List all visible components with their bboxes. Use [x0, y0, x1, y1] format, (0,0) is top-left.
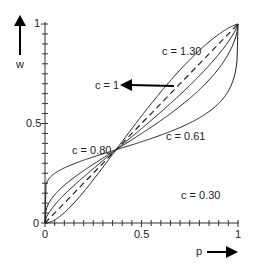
y-axis-arrow-icon [14, 15, 26, 55]
label-c-0.30: c = 0.30 [181, 189, 220, 201]
c1-arrow-icon [120, 79, 174, 91]
label-c-0.80: c = 0.80 [72, 144, 111, 156]
x-tick-0: 0 [42, 228, 48, 240]
chart: 1 0.5 0 0 0.5 1 w p c = 1.30 c = 1 c = 0… [0, 0, 253, 272]
y-tick-0: 0 [33, 217, 39, 229]
y-tick-0.5: 0.5 [26, 117, 41, 129]
x-tick-0.5: 0.5 [134, 228, 149, 240]
x-axis-label: p [196, 245, 202, 257]
y-axis-label: w [15, 58, 24, 70]
x-axis-arrow-icon [207, 246, 238, 258]
label-c-0.61: c = 0.61 [166, 130, 205, 142]
label-c-1: c = 1 [95, 79, 119, 91]
label-c-1.30: c = 1.30 [162, 45, 201, 57]
x-tick-1: 1 [235, 228, 241, 240]
y-tick-1: 1 [34, 17, 40, 29]
